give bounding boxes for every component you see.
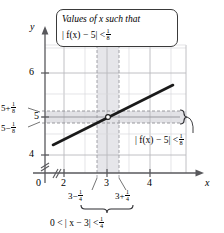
- epsilon-brace-den: 8: [179, 140, 184, 146]
- y-tick-label-5: 5: [34, 111, 39, 121]
- x-band-left-num: 1: [78, 189, 83, 196]
- delta-brace-text: 0 < | x − 3| <: [50, 218, 98, 228]
- x-band-right-prefix: 3+: [115, 191, 125, 201]
- y-band-lower-label: 5−18: [1, 121, 17, 134]
- x-tick-label-2: 2: [61, 178, 66, 188]
- delta-brace-den: 4: [99, 223, 104, 229]
- epsilon-brace-leader: [187, 117, 193, 133]
- y-band-lower-prefix: 5−: [1, 123, 11, 133]
- open-point-marker: [106, 115, 111, 120]
- callout-inequality-text: | f(x) − 5| <: [62, 30, 105, 40]
- callout-line-2: | f(x) − 5| <18: [62, 28, 173, 43]
- x-band-left-fraction: 14: [78, 189, 83, 202]
- callout-frac-denominator: 8: [106, 35, 111, 41]
- y-band-upper-prefix: 5+: [1, 103, 11, 113]
- x-band-left-den: 4: [78, 196, 83, 202]
- x-band-right-fraction: 14: [125, 189, 130, 202]
- y-tick-label-4: 4: [29, 149, 34, 159]
- x-band-right-num: 1: [125, 189, 130, 196]
- delta-brace-fraction: 14: [99, 216, 104, 230]
- callout-fraction: 18: [106, 28, 111, 42]
- delta-brace: [81, 205, 133, 213]
- x-tick-label-4: 4: [147, 178, 152, 188]
- x-axis-arrowhead: [196, 170, 205, 177]
- y-band-lower-den: 8: [11, 128, 16, 134]
- callout-line-1: Values of x such that: [62, 13, 173, 27]
- y-band-upper-num: 1: [11, 101, 16, 108]
- y-band-upper-fraction: 18: [11, 101, 16, 114]
- delta-brace-label: 0 < | x − 3| <14: [50, 216, 105, 230]
- x-band-left-prefix: 3−: [68, 191, 78, 201]
- epsilon-brace-fraction: 18: [179, 133, 184, 147]
- y-band-lower-fraction: 18: [11, 121, 16, 134]
- limit-epsilon-delta-figure: Values of x such that | f(x) − 5| <18 y …: [0, 0, 224, 233]
- y-band-upper-label: 5+18: [1, 101, 17, 114]
- epsilon-brace-label: | f(x) − 5| <18: [135, 133, 184, 147]
- x-band-left-label: 3−14: [68, 189, 84, 202]
- y-tick-label-6: 6: [29, 67, 34, 77]
- x-band-right-den: 4: [125, 196, 130, 202]
- origin-label: 0: [36, 178, 41, 188]
- y-band-upper-den: 8: [11, 108, 16, 114]
- title-callout: Values of x such that | f(x) − 5| <18: [56, 9, 178, 47]
- delta-band-shading: [97, 45, 119, 173]
- x-band-right-label: 3+14: [115, 189, 131, 202]
- epsilon-brace-text: | f(x) − 5| <: [135, 135, 178, 145]
- x-axis-label: x: [205, 178, 209, 188]
- x-tick-label-3: 3: [104, 178, 109, 188]
- y-axis-arrowhead: [42, 26, 49, 35]
- y-band-lower-num: 1: [11, 121, 16, 128]
- y-axis-label: y: [30, 22, 34, 32]
